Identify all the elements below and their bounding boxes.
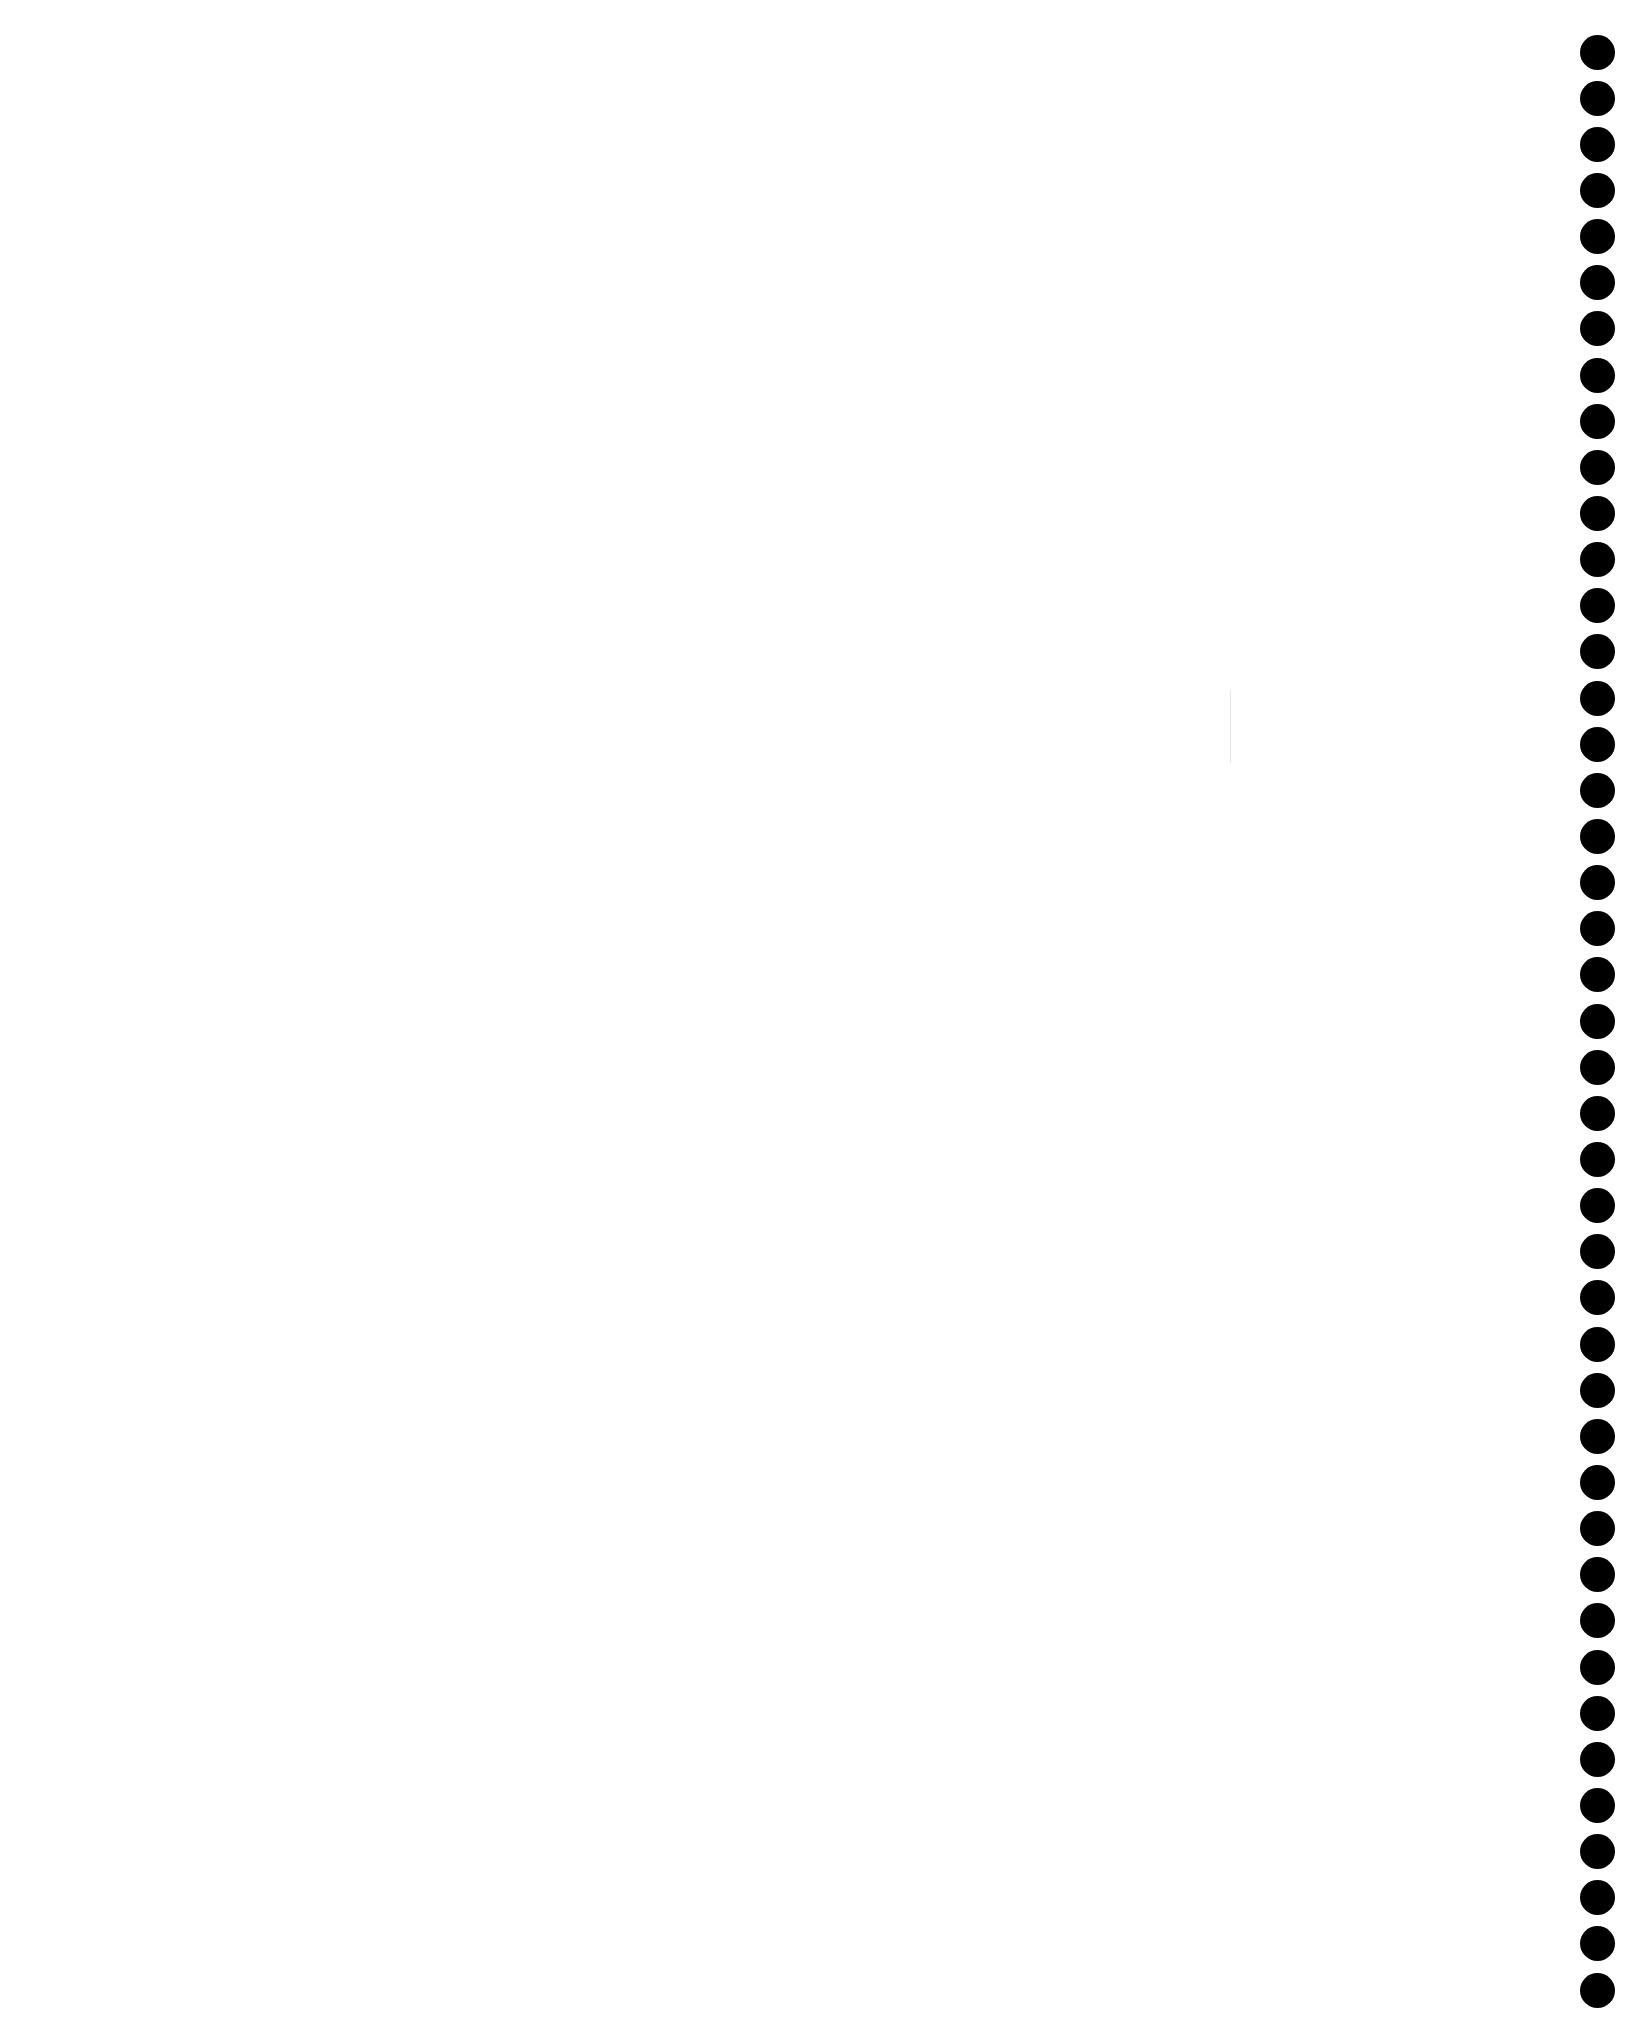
punch-hole-icon [1580, 1327, 1615, 1362]
punch-hole-icon [1580, 35, 1615, 70]
punch-hole-icon [1580, 1696, 1615, 1731]
punch-hole-icon [1580, 219, 1615, 254]
punch-hole-icon [1580, 1557, 1615, 1592]
punch-hole-icon [1580, 450, 1615, 485]
punch-hole-icon [1580, 1050, 1615, 1085]
punch-hole-icon [1580, 681, 1615, 716]
punch-hole-icon [1580, 1373, 1615, 1408]
punch-hole-icon [1580, 1142, 1615, 1177]
punch-hole-icon [1580, 1973, 1615, 2008]
punch-hole-icon [1580, 865, 1615, 900]
punch-hole-icon [1580, 1788, 1615, 1823]
punch-hole-icon [1580, 1004, 1615, 1039]
punch-hole-icon [1580, 1096, 1615, 1131]
punch-hole-icon [1580, 588, 1615, 623]
punch-hole-icon [1580, 1834, 1615, 1869]
punch-hole-icon [1580, 1465, 1615, 1500]
punch-hole-icon [1580, 1419, 1615, 1454]
punch-hole-icon [1580, 358, 1615, 393]
punch-hole-icon [1580, 1880, 1615, 1915]
punch-hole-icon [1580, 1511, 1615, 1546]
punch-hole-icon [1580, 1603, 1615, 1638]
punch-hole-icon [1580, 542, 1615, 577]
punch-hole-icon [1580, 1234, 1615, 1269]
punch-hole-icon [1580, 1742, 1615, 1777]
punch-hole-icon [1580, 773, 1615, 808]
punch-hole-icon [1580, 496, 1615, 531]
punch-hole-icon [1580, 634, 1615, 669]
punch-hole-icon [1580, 265, 1615, 300]
punch-hole-icon [1580, 1280, 1615, 1315]
punch-hole-icon [1580, 1926, 1615, 1961]
punch-hole-icon [1580, 173, 1615, 208]
blank-document-page [0, 0, 1636, 2038]
punch-hole-icon [1580, 311, 1615, 346]
punch-hole-icon [1580, 819, 1615, 854]
faint-scan-mark [1230, 690, 1231, 763]
punch-hole-icon [1580, 81, 1615, 116]
punch-hole-icon [1580, 1188, 1615, 1223]
punch-hole-icon [1580, 957, 1615, 992]
punch-hole-icon [1580, 404, 1615, 439]
punch-hole-icon [1580, 911, 1615, 946]
binding-punch-holes [1580, 0, 1616, 2038]
punch-hole-icon [1580, 1650, 1615, 1685]
punch-hole-icon [1580, 727, 1615, 762]
punch-hole-icon [1580, 127, 1615, 162]
